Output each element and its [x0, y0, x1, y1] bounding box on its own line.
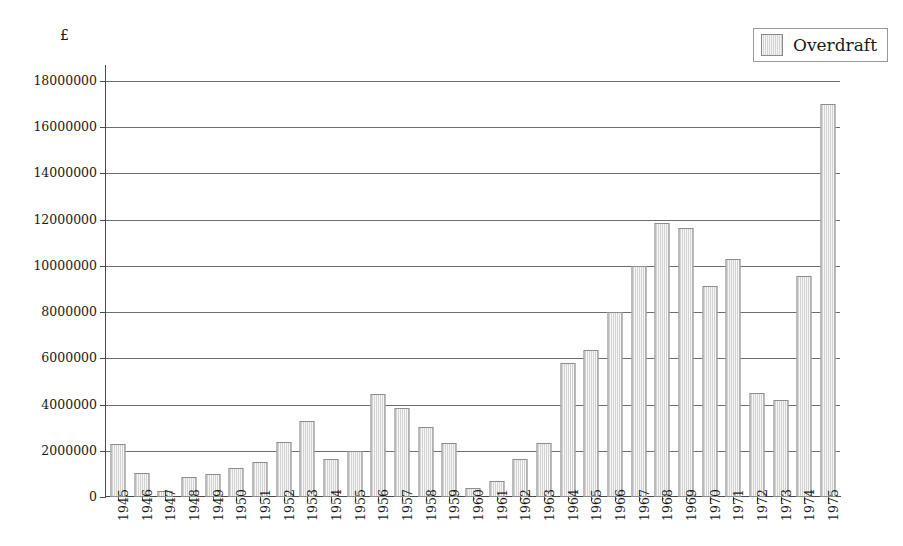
bar-slot: 1960 — [461, 81, 485, 497]
bar-overdraft[interactable] — [560, 363, 575, 497]
x-axis-tick-label: 1946 — [142, 489, 155, 521]
x-axis-tick-label: 1963 — [544, 489, 557, 521]
y-axis-currency-label: £ — [60, 28, 69, 42]
bar-overdraft[interactable] — [631, 266, 646, 497]
x-axis-tick-label: 1948 — [189, 489, 202, 521]
x-axis-tick-label: 1952 — [284, 489, 297, 521]
legend-label-overdraft: Overdraft — [793, 37, 877, 54]
bar-slot: 1968 — [651, 81, 675, 497]
y-axis-tick-label: 16000000 — [33, 121, 97, 134]
y-axis-tick-label: 14000000 — [33, 167, 97, 180]
bar-slot: 1966 — [603, 81, 627, 497]
bar-slot: 1961 — [485, 81, 509, 497]
bar-overdraft[interactable] — [750, 393, 765, 497]
x-axis-tick-label: 1971 — [733, 489, 746, 521]
bar-slot: 1959 — [437, 81, 461, 497]
bar-slot: 1973 — [769, 81, 793, 497]
bar-slot: 1948 — [177, 81, 201, 497]
plot-area: 0200000040000006000000800000010000000120… — [106, 81, 840, 497]
bar-slot: 1953 — [295, 81, 319, 497]
bar-slot: 1945 — [106, 81, 130, 497]
y-axis-tick-label: 12000000 — [33, 213, 97, 226]
bar-slot: 1971 — [722, 81, 746, 497]
bar-slot: 1962 — [509, 81, 533, 497]
bar-overdraft[interactable] — [821, 104, 836, 497]
bar-slot: 1975 — [816, 81, 840, 497]
x-axis-tick-label: 1959 — [449, 489, 462, 521]
bar-overdraft[interactable] — [418, 427, 433, 497]
x-axis-tick-label: 1957 — [402, 489, 415, 521]
bar-slot: 1955 — [343, 81, 367, 497]
bar-overdraft[interactable] — [300, 421, 315, 497]
x-axis-tick-label: 1953 — [307, 489, 320, 521]
bar-overdraft[interactable] — [679, 228, 694, 497]
x-axis-tick-label: 1961 — [497, 489, 510, 521]
bar-slot: 1967 — [627, 81, 651, 497]
bar-slot: 1969 — [674, 81, 698, 497]
x-axis-tick-label: 1965 — [591, 489, 604, 521]
bar-slot: 1970 — [698, 81, 722, 497]
bar-slot: 1949 — [201, 81, 225, 497]
y-axis-tick-label: 0 — [89, 491, 97, 504]
x-axis-tick-label: 1945 — [118, 489, 131, 521]
x-axis-tick-label: 1969 — [686, 489, 699, 521]
x-axis-tick-label: 1955 — [355, 489, 368, 521]
bar-slot: 1972 — [745, 81, 769, 497]
bar-slot: 1954 — [319, 81, 343, 497]
bar-overdraft[interactable] — [584, 350, 599, 497]
legend-swatch-overdraft — [761, 34, 783, 56]
y-axis-tick-label: 4000000 — [41, 398, 97, 411]
x-axis-tick-label: 1947 — [165, 489, 178, 521]
x-axis-tick-label: 1970 — [710, 489, 723, 521]
bar-overdraft[interactable] — [608, 312, 623, 497]
bar-slot: 1947 — [153, 81, 177, 497]
bar-slot: 1963 — [532, 81, 556, 497]
bar-slot: 1956 — [366, 81, 390, 497]
y-axis-tick-label: 2000000 — [41, 445, 97, 458]
bar-slot: 1951 — [248, 81, 272, 497]
bar-slot: 1952 — [272, 81, 296, 497]
y-axis-tick-label: 18000000 — [33, 75, 97, 88]
x-axis-tick-label: 1973 — [781, 489, 794, 521]
bar-overdraft[interactable] — [394, 408, 409, 497]
chart-page: £ Overdraft 0200000040000006000000800000… — [0, 0, 903, 546]
x-axis-tick-label: 1964 — [568, 489, 581, 521]
x-axis-tick-label: 1966 — [615, 489, 628, 521]
x-axis-tick-label: 1974 — [804, 489, 817, 521]
bar-slot: 1950 — [224, 81, 248, 497]
x-axis-tick-label: 1958 — [426, 489, 439, 521]
y-axis-tick-label: 8000000 — [41, 306, 97, 319]
bar-overdraft[interactable] — [797, 276, 812, 497]
x-axis-tick-label: 1956 — [378, 489, 391, 521]
bar-slot: 1964 — [556, 81, 580, 497]
x-axis-tick-label: 1950 — [236, 489, 249, 521]
y-axis-tick-label: 10000000 — [33, 260, 97, 273]
bars-group: 1945194619471948194919501951195219531954… — [106, 81, 840, 497]
bar-slot: 1965 — [580, 81, 604, 497]
x-axis-tick-label: 1962 — [520, 489, 533, 521]
x-axis-tick-label: 1968 — [662, 489, 675, 521]
bar-slot: 1946 — [130, 81, 154, 497]
chart-legend: Overdraft — [753, 28, 888, 62]
x-axis-tick-label: 1975 — [828, 489, 841, 521]
bar-overdraft[interactable] — [371, 394, 386, 497]
y-axis-tick-label: 6000000 — [41, 352, 97, 365]
bar-overdraft[interactable] — [702, 286, 717, 497]
bar-slot: 1957 — [390, 81, 414, 497]
x-axis-tick-label: 1954 — [331, 489, 344, 521]
bar-overdraft[interactable] — [726, 259, 741, 497]
x-axis-tick-label: 1972 — [757, 489, 770, 521]
bar-overdraft[interactable] — [655, 223, 670, 497]
bar-slot: 1958 — [414, 81, 438, 497]
x-axis-tick-label: 1967 — [639, 489, 652, 521]
x-axis-tick-label: 1951 — [260, 489, 273, 521]
y-axis-tick-mark — [100, 497, 106, 498]
x-axis-tick-label: 1960 — [473, 489, 486, 521]
x-axis-tick-label: 1949 — [213, 489, 226, 521]
bar-overdraft[interactable] — [773, 400, 788, 497]
bar-slot: 1974 — [793, 81, 817, 497]
